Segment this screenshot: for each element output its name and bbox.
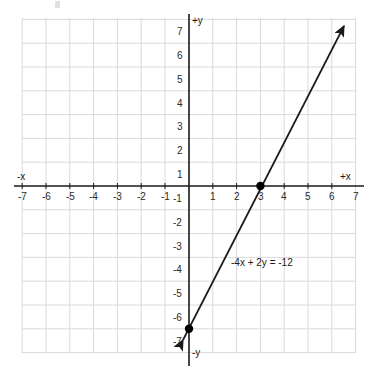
y-tick-label: 7 <box>177 27 183 37</box>
y-tick-label: -6 <box>173 313 182 323</box>
y-tick-label: -2 <box>173 218 182 228</box>
y-tick-label: -5 <box>173 289 182 299</box>
axis-label-positive-x: +x <box>340 172 351 182</box>
y-tick-label: -4 <box>173 265 182 275</box>
y-tick-label: -3 <box>173 242 182 252</box>
y-tick-label: -7 <box>173 337 182 347</box>
x-tick-label: 4 <box>281 192 287 202</box>
axis-label-negative-y: -y <box>192 348 200 358</box>
x-tick-label: 6 <box>329 192 335 202</box>
coordinate-plane-figure: -7 -6 -5 -4 -3 -2 -1 1 2 3 4 5 6 7 7 6 5… <box>0 0 378 380</box>
x-tick-label: -3 <box>113 192 122 202</box>
y-tick-label: 3 <box>177 122 183 132</box>
x-tick-label: -1 <box>161 192 170 202</box>
x-tick-label: 5 <box>305 192 311 202</box>
point-x-intercept <box>256 182 264 190</box>
x-tick-label: -5 <box>66 192 75 202</box>
x-tick-label: -7 <box>18 192 27 202</box>
y-tick-label: 6 <box>177 51 183 61</box>
point-y-intercept <box>185 325 193 333</box>
axis-label-positive-y: +y <box>192 16 203 26</box>
plotted-line <box>183 26 344 340</box>
graph-canvas <box>0 0 378 380</box>
y-tick-label: 2 <box>177 146 183 156</box>
equation-annotation: -4x + 2y = -12 <box>231 258 293 268</box>
y-tick-label: -1 <box>173 194 182 204</box>
y-tick-label: 4 <box>177 99 183 109</box>
x-tick-label: 1 <box>210 192 216 202</box>
y-tick-label: 5 <box>177 75 183 85</box>
x-tick-label: -6 <box>42 192 51 202</box>
y-tick-label: 1 <box>177 170 183 180</box>
x-tick-label: 7 <box>353 192 359 202</box>
x-tick-label: -2 <box>137 192 146 202</box>
x-tick-label: 2 <box>234 192 240 202</box>
x-tick-label: 3 <box>258 192 264 202</box>
x-tick-label: -4 <box>89 192 98 202</box>
axis-label-negative-x: -x <box>17 172 25 182</box>
